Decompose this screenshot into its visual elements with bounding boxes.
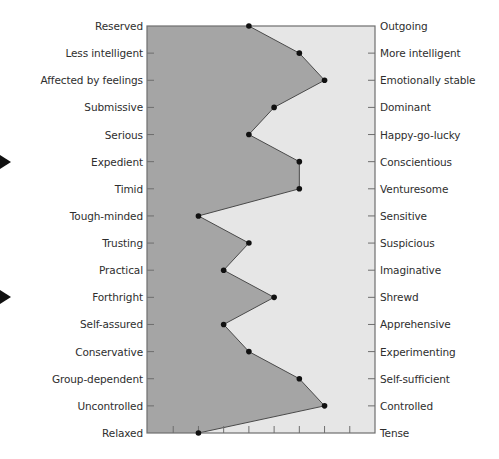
- data-point: [221, 267, 227, 273]
- data-point: [196, 213, 202, 219]
- data-point: [196, 430, 202, 436]
- right-trait-label: Apprehensive: [380, 317, 451, 331]
- left-trait-label: Forthright: [92, 290, 143, 304]
- data-point: [246, 132, 252, 138]
- data-point: [297, 376, 303, 382]
- right-trait-label: Sensitive: [380, 209, 427, 223]
- left-trait-label: Group-dependent: [52, 372, 143, 386]
- left-trait-label: Trusting: [102, 236, 143, 250]
- data-point: [322, 77, 328, 83]
- data-point: [297, 50, 303, 56]
- right-trait-label: More intelligent: [380, 46, 461, 60]
- data-point: [246, 240, 252, 246]
- data-point: [246, 349, 252, 355]
- right-trait-label: Suspicious: [380, 236, 435, 250]
- right-trait-label: Venturesome: [380, 182, 448, 196]
- right-trait-label: Self-sufficient: [380, 372, 450, 386]
- left-trait-label: Self-assured: [80, 317, 143, 331]
- right-trait-label: Emotionally stable: [380, 73, 475, 87]
- profile-chart: [0, 0, 499, 459]
- right-trait-label: Imaginative: [380, 263, 441, 277]
- left-trait-label: Uncontrolled: [77, 399, 143, 413]
- right-trait-label: Conscientious: [380, 155, 452, 169]
- right-trait-label: Shrewd: [380, 290, 419, 304]
- left-trait-label: Tough-minded: [70, 209, 143, 223]
- right-trait-label: Controlled: [380, 399, 433, 413]
- right-trait-label: Outgoing: [380, 19, 428, 33]
- arrow-marker-icon: [0, 290, 11, 304]
- left-trait-label: Conservative: [75, 345, 143, 359]
- right-trait-label: Happy-go-lucky: [380, 128, 460, 142]
- left-trait-label: Affected by feelings: [41, 73, 143, 87]
- left-trait-label: Practical: [99, 263, 143, 277]
- left-trait-label: Relaxed: [102, 426, 143, 440]
- right-trait-label: Dominant: [380, 100, 431, 114]
- left-trait-label: Serious: [105, 128, 143, 142]
- left-trait-label: Less intelligent: [65, 46, 143, 60]
- data-point: [221, 322, 227, 328]
- arrow-marker-icon: [0, 155, 11, 169]
- left-trait-label: Reserved: [95, 19, 143, 33]
- data-point: [271, 295, 277, 301]
- right-trait-label: Experimenting: [380, 345, 456, 359]
- data-point: [271, 105, 277, 111]
- data-point: [246, 23, 252, 29]
- left-trait-label: Timid: [115, 182, 143, 196]
- left-trait-label: Submissive: [84, 100, 143, 114]
- data-point: [297, 186, 303, 192]
- left-trait-label: Expedient: [91, 155, 143, 169]
- data-point: [322, 403, 328, 409]
- right-trait-label: Tense: [380, 426, 409, 440]
- data-point: [297, 159, 303, 165]
